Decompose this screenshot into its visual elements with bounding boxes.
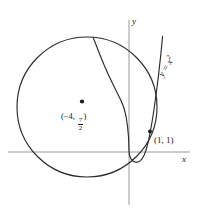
center-label-open: (−4, [61, 111, 77, 121]
tangent-point-label: (1, 1) [154, 136, 174, 145]
circle-curve [17, 37, 157, 177]
circle-center-label: (−4, 7 2 ) [61, 112, 86, 132]
graph-svg [0, 0, 201, 213]
figure-canvas: y x y = x2 (1, 1) (−4, 7 2 ) [0, 0, 201, 213]
x-axis-label: x [182, 155, 186, 164]
circle-center-marker [80, 99, 84, 103]
y-axis-label: y [132, 17, 136, 26]
tangent-point-marker [148, 130, 152, 134]
center-label-denominator: 2 [78, 124, 83, 132]
center-label-fraction: 7 2 [78, 117, 83, 132]
center-label-numerator: 7 [78, 117, 83, 124]
center-label-close: ) [84, 111, 87, 121]
parabola-curve [93, 36, 162, 162]
